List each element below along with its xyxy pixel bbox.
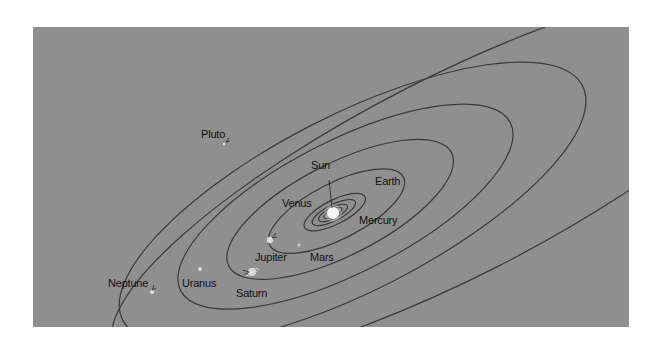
neptune-icon	[150, 290, 154, 294]
label-jupiter: Jupiter	[255, 251, 287, 263]
uranus-icon	[198, 267, 202, 271]
mars-icon	[297, 243, 300, 246]
label-earth: Earth	[375, 175, 400, 187]
solar-system-diagram: Sun Earth Venus Mercury Jupiter Mars Nep…	[33, 27, 629, 327]
orbit-pluto	[69, 27, 629, 327]
orbit-neptune	[83, 27, 623, 327]
label-venus: Venus	[282, 197, 312, 209]
label-pluto: Pluto	[201, 128, 225, 140]
direction-arrow-icon	[272, 233, 277, 238]
label-saturn: Saturn	[236, 287, 267, 299]
direction-arrow-icon	[152, 285, 156, 290]
direction-arrow-icon	[226, 138, 230, 142]
label-sun: Sun	[311, 159, 330, 171]
label-mercury: Mercury	[359, 214, 397, 226]
label-mars: Mars	[310, 251, 334, 263]
direction-arrow-icon	[243, 270, 249, 275]
pluto-icon	[223, 143, 225, 145]
label-neptune: Neptune	[108, 277, 148, 289]
sun-leader-line	[329, 180, 332, 208]
label-uranus: Uranus	[182, 277, 216, 289]
